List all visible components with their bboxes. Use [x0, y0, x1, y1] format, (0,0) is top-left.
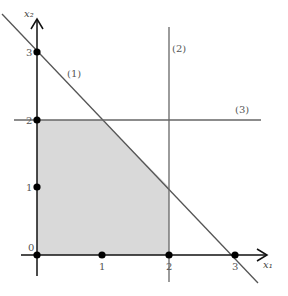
constraint-label-3: (3)	[235, 104, 249, 115]
x-axis-label: x₁	[263, 259, 273, 270]
lp-diagram: 0 1 2 3 1 2 3 x₁ x₂ (1) (2) (3)	[0, 0, 288, 296]
x-tick-3: 3	[232, 261, 238, 272]
y-tick-2: 2	[26, 115, 32, 126]
constraint-label-2: (2)	[172, 43, 186, 54]
x-tick-2: 2	[166, 261, 172, 272]
y-tick-1: 1	[26, 182, 32, 193]
y-axis-label: x₂	[24, 8, 34, 19]
x-tick-1: 1	[99, 261, 105, 272]
constraint-label-1: (1)	[67, 68, 81, 79]
origin-label: 0	[28, 242, 34, 253]
feasible-region	[37, 120, 169, 255]
y-tick-3: 3	[26, 47, 32, 58]
